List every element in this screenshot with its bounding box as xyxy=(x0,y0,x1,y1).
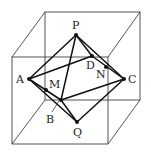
label-C: C xyxy=(128,73,136,86)
edge-BQ xyxy=(61,100,77,122)
label-B: B xyxy=(46,113,54,126)
octahedron xyxy=(29,35,124,122)
edge-PB xyxy=(61,35,76,100)
edge-AD xyxy=(29,56,92,79)
point-A xyxy=(27,77,31,81)
label-A: A xyxy=(15,73,25,86)
edge-BC xyxy=(61,79,124,100)
point-Q xyxy=(75,120,79,124)
point-P xyxy=(74,33,78,37)
label-P: P xyxy=(72,19,80,32)
edge-QC xyxy=(77,79,124,122)
cube-edge-top-left xyxy=(12,12,45,57)
label-N: N xyxy=(96,68,106,81)
octahedron-in-cube-diagram: P A B C D Q M N xyxy=(0,0,151,158)
label-D: D xyxy=(86,59,95,72)
cube-edge-top-right xyxy=(108,12,140,57)
point-M xyxy=(44,88,48,92)
point-C xyxy=(122,77,126,81)
cube-edge-bottom-left xyxy=(12,100,45,144)
label-Q: Q xyxy=(73,126,82,139)
points xyxy=(27,33,126,124)
edge-PD xyxy=(76,35,92,56)
label-M: M xyxy=(49,78,60,91)
point-B xyxy=(59,98,63,102)
point-D xyxy=(90,54,94,58)
cube-edge-bottom-right xyxy=(108,100,140,144)
